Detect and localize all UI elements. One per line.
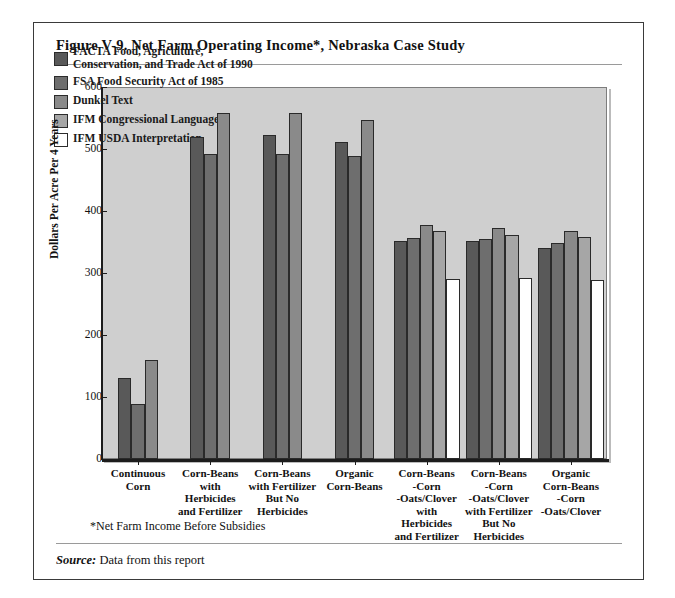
bar-dunkel-g2: [289, 113, 302, 459]
bar-fsa-g4: [407, 238, 420, 459]
legend-item-label: FACTA Food, Agriculture, Conservation, a…: [73, 45, 253, 72]
y-tick-label: 300: [70, 266, 102, 278]
bar-facta-g5: [466, 241, 479, 459]
source-label: Source:: [56, 553, 96, 567]
bar-facta-g2: [263, 135, 276, 459]
x-axis-line: [102, 459, 609, 462]
legend-swatch-icon: [54, 52, 68, 66]
x-tick-mark: [282, 459, 283, 465]
bar-ifm-usda-g4: [446, 279, 459, 459]
bar-fsa-g2: [276, 154, 289, 459]
bar-ifm-cl-g4: [433, 231, 446, 459]
x-tick-mark: [138, 459, 139, 465]
bar-ifm-cl-g5: [505, 235, 518, 459]
x-tick-mark: [355, 459, 356, 465]
bar-dunkel-g3: [361, 120, 374, 459]
chart-footnote: *Net Farm Income Before Subsidies: [90, 519, 265, 534]
bar-ifm-cl-g6: [578, 237, 591, 459]
bar-fsa-g1: [204, 154, 217, 459]
source-text: Data from this report: [96, 553, 204, 567]
y-axis-ticks: 0100200300400500600: [66, 87, 102, 459]
bar-dunkel-g5: [492, 228, 505, 459]
y-tick-label: 400: [70, 204, 102, 216]
bar-dunkel-g4: [420, 225, 433, 459]
y-tick-label: 600: [70, 80, 102, 92]
x-tick-mark: [210, 459, 211, 465]
bar-ifm-usda-g6: [591, 280, 604, 459]
bar-dunkel-g0: [145, 360, 158, 459]
y-tick-label: 200: [70, 328, 102, 340]
bar-fsa-g3: [348, 156, 361, 459]
figure-frame: Figure V-9. Net Farm Operating Income*, …: [33, 22, 644, 580]
figure-page: Figure V-9. Net Farm Operating Income*, …: [0, 0, 675, 598]
bar-fsa-g5: [479, 239, 492, 459]
bar-facta-g0: [118, 378, 131, 459]
bar-dunkel-g1: [217, 113, 230, 459]
bar-ifm-usda-g5: [519, 278, 532, 459]
x-tick-mark: [571, 459, 572, 465]
x-tick-mark: [427, 459, 428, 465]
bar-fsa-g6: [551, 243, 564, 459]
y-tick-label: 0: [70, 452, 102, 464]
bar-facta-g6: [538, 248, 551, 459]
legend-item-0: FACTA Food, Agriculture, Conservation, a…: [54, 43, 253, 73]
x-axis-label-6: Organic Corn-Beans -Corn -Oats/Clover: [528, 467, 614, 517]
bar-dunkel-g6: [564, 231, 577, 459]
y-tick-label: 500: [70, 142, 102, 154]
source-note: Source: Data from this report: [56, 553, 205, 568]
y-tick-label: 100: [70, 390, 102, 402]
y-axis-title: Dollars Per Acre Per 4 Years: [48, 119, 60, 259]
bar-series-layer: [102, 87, 607, 459]
x-tick-mark: [499, 459, 500, 465]
bar-facta-g1: [190, 137, 203, 459]
source-divider: [56, 543, 622, 544]
bar-facta-g4: [394, 241, 407, 459]
bar-facta-g3: [335, 142, 348, 459]
bar-fsa-g0: [131, 404, 144, 459]
